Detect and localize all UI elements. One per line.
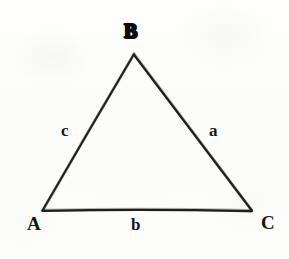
vertex-label-a: A (27, 214, 41, 233)
triangle-figure: A B C c a b (0, 0, 289, 259)
vertex-label-c: C (261, 213, 275, 232)
vertex-label-b: B (124, 21, 137, 41)
side-label-b: b (131, 216, 140, 233)
triangle-outline-svg (0, 0, 289, 259)
side-label-c: c (61, 122, 69, 139)
side-label-a: a (209, 122, 218, 139)
